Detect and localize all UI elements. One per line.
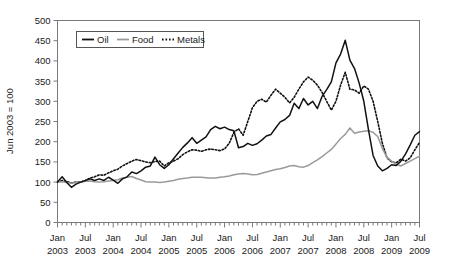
data-series-group	[58, 40, 420, 187]
x-tick-label-year: 2005	[186, 245, 207, 256]
y-tick-label: 350	[35, 76, 51, 87]
x-tick-label-month: Jan	[161, 232, 176, 243]
x-tick-label-month: Jan	[106, 232, 121, 243]
y-tick-label: 400	[35, 55, 51, 66]
legend-label-food: Food	[132, 34, 154, 45]
y-axis-title: Jun 2003 = 100	[4, 88, 15, 154]
chart-container: 050100150200250300350400450500 Jun 2003 …	[0, 0, 449, 270]
y-tick-label: 300	[35, 96, 51, 107]
chart-legend: Oil Food Metals	[77, 32, 206, 48]
legend-label-metals: Metals	[177, 34, 205, 45]
x-tick-label-year: 2006	[242, 245, 263, 256]
x-tick-label-year: 2008	[353, 245, 374, 256]
x-tick-label-year: 2007	[270, 245, 291, 256]
x-tick-label-month: Jul	[302, 232, 314, 243]
legend-label-oil: Oil	[97, 34, 109, 45]
x-tick-label-year: 2008	[325, 245, 346, 256]
x-axis-labels: Jan2003Jul2003Jan2004Jul2004Jan2005Jul20…	[47, 232, 430, 256]
y-tick-label: 200	[35, 136, 51, 147]
x-tick-label-year: 2003	[75, 245, 96, 256]
x-tick-label-month: Jan	[217, 232, 232, 243]
x-tick-label-month: Jul	[358, 232, 370, 243]
plot-frame	[58, 21, 420, 223]
y-tick-label: 0	[45, 217, 50, 228]
x-tick-label-month: Jan	[328, 232, 343, 243]
x-tick-label-year: 2006	[214, 245, 235, 256]
x-tick-label-year: 2004	[130, 245, 151, 256]
series-line-oil	[58, 40, 420, 187]
series-line-metals	[58, 72, 420, 183]
x-axis-ticks	[58, 223, 420, 228]
x-tick-label-year: 2004	[103, 245, 124, 256]
y-tick-label: 500	[35, 15, 51, 26]
x-tick-label-month: Jul	[413, 232, 425, 243]
y-tick-label: 100	[35, 177, 51, 188]
y-tick-label: 150	[35, 156, 51, 167]
x-tick-label-year: 2005	[158, 245, 179, 256]
x-tick-label-month: Jul	[191, 232, 203, 243]
x-tick-label-month: Jul	[135, 232, 147, 243]
y-tick-label: 450	[35, 35, 51, 46]
x-tick-label-year: 2009	[381, 245, 402, 256]
x-tick-label-year: 2009	[409, 245, 430, 256]
y-tick-label: 250	[35, 116, 51, 127]
x-tick-label-month: Jan	[384, 232, 399, 243]
x-tick-label-year: 2007	[298, 245, 319, 256]
x-tick-label-month: Jul	[79, 232, 91, 243]
y-axis: 050100150200250300350400450500	[35, 15, 58, 228]
x-tick-label-month: Jul	[246, 232, 258, 243]
x-tick-label-month: Jan	[273, 232, 288, 243]
commodity-price-index-line-chart: 050100150200250300350400450500 Jun 2003 …	[0, 0, 449, 270]
x-tick-label-month: Jan	[50, 232, 65, 243]
y-tick-label: 50	[40, 197, 51, 208]
x-tick-label-year: 2003	[47, 245, 68, 256]
series-line-food	[58, 128, 420, 183]
